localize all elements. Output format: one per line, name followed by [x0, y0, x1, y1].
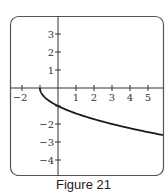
y-tick-label: −4: [39, 155, 54, 166]
y-tick-label: −3: [39, 137, 54, 148]
x-tick-label: 2: [91, 92, 97, 103]
x-tick-label: 1: [73, 92, 79, 103]
plot-frame: [11, 17, 164, 176]
x-tick-label: 5: [145, 92, 151, 103]
axis-ticks: −212345321−2−3−4: [13, 29, 152, 166]
y-tick-label: −2: [39, 119, 54, 130]
x-tick-label: −2: [13, 92, 28, 103]
chart-plot: −212345321−2−3−4: [0, 0, 167, 176]
figure-caption: Figure 21: [0, 177, 167, 192]
y-tick-label: 3: [48, 29, 54, 40]
x-tick-label: 3: [109, 92, 115, 103]
y-tick-label: 2: [48, 47, 54, 58]
x-tick-label: 4: [127, 92, 133, 103]
y-tick-label: 1: [48, 65, 54, 76]
